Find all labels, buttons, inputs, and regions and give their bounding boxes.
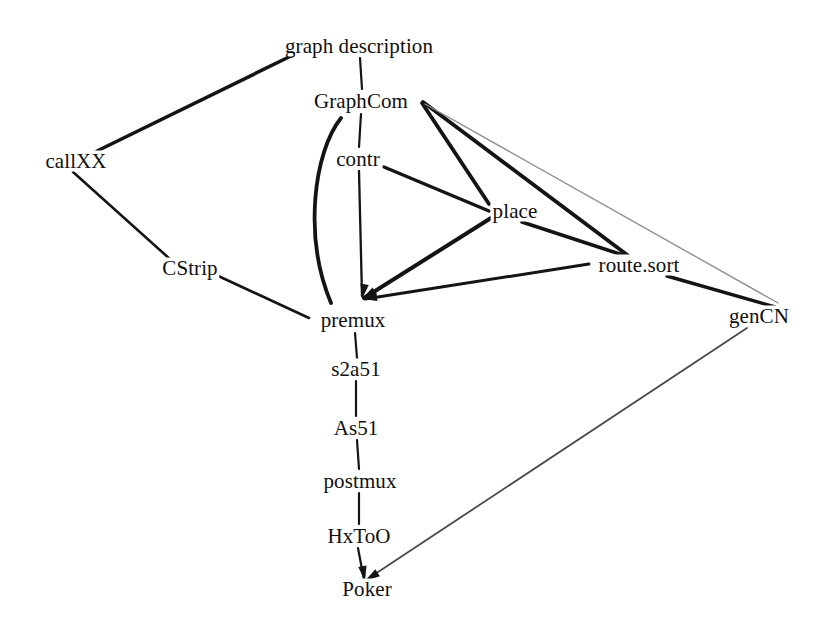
graph-edge bbox=[422, 103, 489, 204]
node-label-premux[interactable]: premux bbox=[319, 310, 388, 331]
graph-edge bbox=[97, 56, 291, 151]
graph-edge bbox=[364, 218, 491, 298]
graph-edge bbox=[358, 548, 364, 580]
graph-edge bbox=[384, 167, 489, 211]
node-label-s2a51[interactable]: s2a51 bbox=[329, 359, 383, 380]
node-label-hxtoo[interactable]: HxToO bbox=[325, 526, 392, 547]
node-label-contr[interactable]: contr bbox=[334, 149, 382, 170]
arrow-head bbox=[362, 287, 377, 299]
graph-edge bbox=[667, 276, 775, 307]
graph-edge bbox=[359, 171, 362, 296]
graph-edge bbox=[360, 58, 362, 89]
arrow-head bbox=[362, 293, 377, 301]
edge-layer bbox=[0, 0, 838, 631]
node-label-as51[interactable]: As51 bbox=[332, 418, 381, 439]
node-label-poker[interactable]: Poker bbox=[340, 579, 394, 600]
arrow-head bbox=[360, 283, 368, 299]
node-label-cstrip[interactable]: CStrip bbox=[160, 258, 219, 279]
node-label-postmux[interactable]: postmux bbox=[321, 471, 398, 492]
graph-edge bbox=[366, 328, 747, 580]
graph-edge bbox=[355, 333, 357, 358]
node-label-gencn[interactable]: genCN bbox=[727, 306, 791, 327]
node-label-route-sort[interactable]: route.sort bbox=[597, 255, 682, 276]
diagram-canvas: graph descriptionGraphComcallXXcontrplac… bbox=[0, 0, 838, 631]
graph-edge bbox=[365, 264, 589, 299]
graph-edge bbox=[359, 114, 361, 147]
node-label-callxx[interactable]: callXX bbox=[43, 151, 108, 172]
edges-group bbox=[73, 56, 778, 580]
node-label-graphcom[interactable]: GraphCom bbox=[312, 91, 410, 112]
graph-edge bbox=[357, 440, 359, 469]
graph-edge bbox=[214, 274, 309, 318]
node-label-place[interactable]: place bbox=[491, 201, 540, 222]
graph-edge bbox=[423, 102, 630, 257]
graph-edge bbox=[73, 172, 171, 260]
node-label-graph-description[interactable]: graph description bbox=[283, 36, 435, 57]
